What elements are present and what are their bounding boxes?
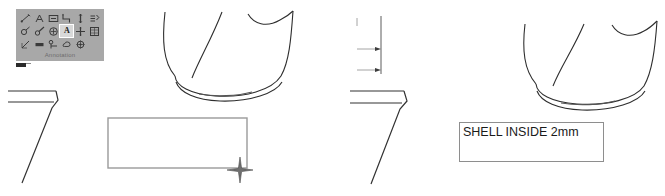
empty-annotation-box[interactable]: [108, 118, 247, 168]
dim-arrowhead-2: [375, 68, 381, 72]
shell-rim-lower: [537, 91, 645, 110]
shell-inner-edge: [192, 12, 222, 78]
shell-rim-upper: [536, 84, 644, 104]
dim-arrowhead-1: [375, 47, 381, 51]
shell-rim-upper: [175, 76, 281, 96]
screenshot-canvas: A: [0, 0, 665, 196]
left-viewport-before: A: [0, 0, 332, 196]
right-viewport-after: [332, 0, 665, 196]
left-geometry-layer: [0, 0, 332, 196]
shell-outer-left-edge: [524, 24, 536, 84]
wall-slope-edge: [371, 91, 407, 184]
wall-slope-edge: [22, 91, 58, 183]
shell-annotation-box[interactable]: SHELL INSIDE 2mm: [459, 122, 604, 162]
shell-outer-left-edge: [164, 12, 175, 76]
shell-inner-edge: [553, 24, 584, 86]
right-geometry-layer: [332, 0, 665, 196]
shell-outer-right-edge: [644, 21, 657, 86]
shell-outer-right-edge: [281, 11, 293, 76]
shell-top-right-lip: [612, 21, 657, 35]
shell-annotation-text: SHELL INSIDE 2mm: [463, 125, 579, 140]
shell-top-right-lip: [248, 11, 293, 24]
